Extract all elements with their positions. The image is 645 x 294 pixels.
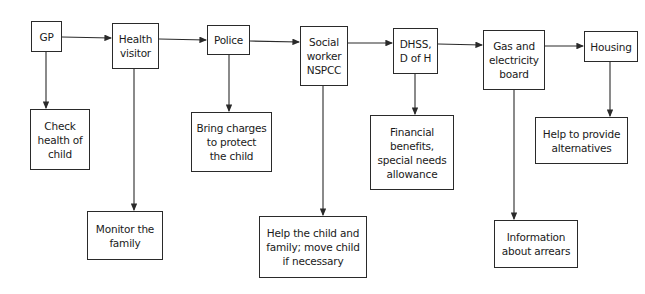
node-health-visitor: Health visitor (112, 23, 159, 69)
role-label: Monitor the family (96, 222, 154, 250)
arrow-dhss-to-gas-electricity (438, 44, 482, 45)
node-dhss: DHSS, D of H (393, 28, 438, 74)
role-label: Financial benefits, special needs allowa… (377, 125, 446, 181)
role-label: Help the child and family; move child if… (266, 226, 359, 268)
arrow-health-visitor-to-police (159, 39, 206, 40)
role-financial-benefits: Financial benefits, special needs allowa… (370, 115, 454, 190)
node-housing: Housing (584, 31, 638, 62)
role-bring-charges: Bring charges to protect the child (191, 112, 272, 172)
arrow-police-to-social-worker (250, 41, 299, 42)
node-police: Police (207, 25, 250, 55)
role-label: Bring charges to protect the child (196, 121, 266, 163)
node-label: Housing (590, 40, 631, 54)
role-check-health: Check health of child (30, 109, 90, 170)
node-label: GP (39, 30, 53, 44)
node-label: Gas and electricity board (489, 39, 539, 81)
role-info-arrears: Information about arrears (494, 220, 578, 268)
role-label: Information about arrears (502, 230, 570, 258)
agency-flowchart: GP Health visitor Police Social worker N… (0, 0, 645, 294)
role-monitor-family: Monitor the family (87, 211, 163, 260)
role-alternatives: Help to provide alternatives (535, 117, 628, 164)
node-social-worker: Social worker NSPCC (300, 26, 348, 86)
node-gas-electricity: Gas and electricity board (483, 30, 545, 90)
node-label: Police (214, 33, 243, 47)
role-label: Help to provide alternatives (543, 127, 621, 155)
role-help-child: Help the child and family; move child if… (259, 216, 367, 278)
node-gp: GP (31, 21, 62, 52)
role-label: Check health of child (38, 119, 83, 161)
node-label: Social worker NSPCC (307, 35, 342, 77)
node-label: DHSS, D of H (400, 37, 432, 65)
node-label: Health visitor (119, 32, 152, 60)
arrow-gp-to-health-visitor (62, 37, 111, 38)
